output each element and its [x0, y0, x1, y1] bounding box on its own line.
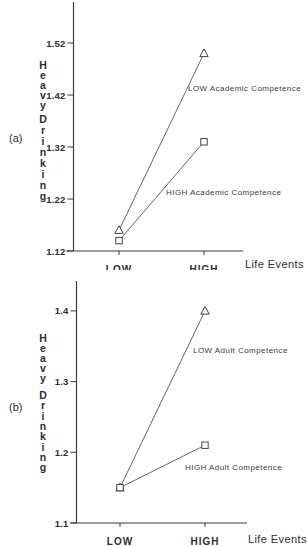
figure-two-panel-interaction-plot: 1.121.221.321.421.52LOWHIGHLife EventsHe… — [0, 0, 308, 547]
square-marker — [201, 139, 207, 145]
series-annotation-label: LOW Adult Competence — [193, 346, 288, 355]
series-line-triangle — [120, 311, 205, 488]
panel-label: (a) — [9, 132, 22, 144]
x-axis-title: Life Events — [248, 533, 307, 545]
chart-panel-b: 1.11.21.31.4LOWHIGHLife EventsHeavyDrink… — [0, 270, 308, 547]
y-tick-label: 1.2 — [55, 447, 69, 458]
series-annotation-label: HIGH Adult Competence — [185, 463, 282, 472]
x-tick-label: LOW — [107, 536, 133, 547]
y-tick-label: 1.4 — [55, 305, 69, 316]
y-tick-label: 1.3 — [55, 376, 69, 387]
series-annotation-label: HIGH Academic Competence — [166, 188, 281, 197]
y-tick-label: 1.22 — [46, 194, 65, 205]
triangle-marker — [201, 307, 209, 315]
square-marker — [202, 442, 208, 448]
triangle-marker — [115, 226, 123, 234]
y-axis-title-letter: g — [40, 461, 46, 473]
y-axis-title-letter: g — [40, 190, 46, 202]
series-line-triangle — [119, 53, 204, 230]
chart-panel-a: 1.121.221.321.421.52LOWHIGHLife EventsHe… — [0, 0, 308, 270]
x-tick-label: HIGH — [191, 536, 220, 547]
x-tick-label: HIGH — [190, 264, 219, 270]
y-tick-label: 1.12 — [46, 246, 65, 257]
panel-label: (b) — [9, 401, 22, 413]
y-axis-title-letter: y — [40, 99, 46, 111]
series-annotation-label: LOW Academic Competence — [188, 84, 301, 93]
y-axis-title-letter: y — [40, 372, 46, 384]
y-tick-label: 1.42 — [46, 90, 65, 101]
square-marker — [116, 237, 122, 243]
y-tick-label: 1.1 — [55, 518, 69, 529]
triangle-marker — [200, 49, 208, 57]
x-axis-title: Life Events — [245, 258, 304, 270]
y-tick-label: 1.52 — [46, 38, 65, 49]
x-tick-label: LOW — [106, 264, 132, 270]
y-tick-label: 1.32 — [46, 142, 65, 153]
square-marker — [117, 484, 123, 490]
